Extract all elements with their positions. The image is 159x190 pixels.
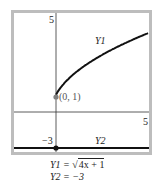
y1-formula: Y1 = √4x + 1 [50, 160, 104, 170]
y2-label: Y2 [95, 136, 106, 146]
y2-value-label: −3 [42, 136, 53, 146]
point-label: (0, 1) [59, 92, 81, 102]
point-0-neg3 [53, 145, 58, 150]
sqrt-icon: √ [72, 159, 78, 170]
y2-formula: Y2 = −3 [50, 172, 84, 182]
y1-label: Y1 [95, 36, 106, 46]
y1-formula-radicand: 4x + 1 [78, 158, 105, 170]
x-max-label: 5 [143, 117, 148, 127]
point-0-1 [53, 94, 58, 99]
y1-formula-lhs: Y1 = [50, 159, 72, 170]
y-max-label: 5 [49, 15, 54, 25]
